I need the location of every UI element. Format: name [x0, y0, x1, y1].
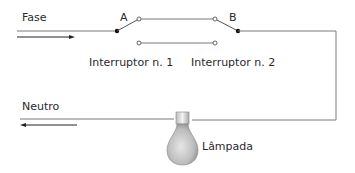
switch-a-terminal-label: A [120, 12, 128, 23]
phase-direction-arrow [17, 35, 75, 39]
neutral-direction-arrow [20, 123, 77, 127]
switch-a-upper-terminal [137, 17, 141, 21]
neutral-label: Neutro [22, 101, 59, 112]
phase-label: Fase [22, 12, 47, 23]
switch-b-upper-terminal [213, 17, 217, 21]
switch-b-terminal-label: B [229, 12, 237, 23]
switch-a-lower-terminal [137, 41, 141, 45]
circuit-diagram [0, 0, 355, 173]
lamp-label: Lâmpada [202, 141, 253, 152]
switch-b-lower-terminal [213, 41, 217, 45]
switch-2-label: Interruptor n. 2 [191, 57, 275, 68]
switch-1-label: Interruptor n. 1 [89, 57, 173, 68]
